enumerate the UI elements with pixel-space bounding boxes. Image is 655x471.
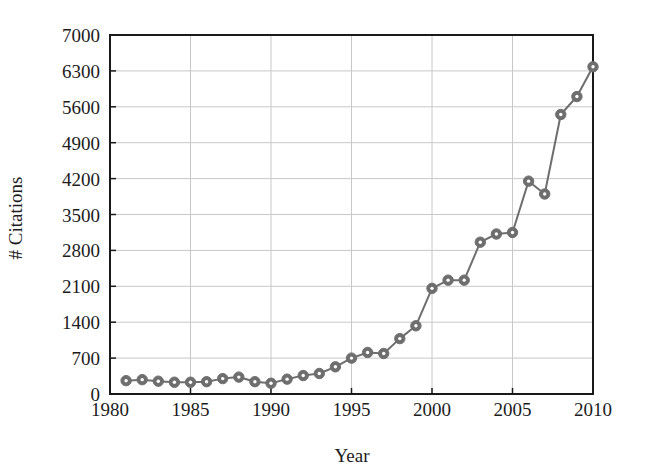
data-point-marker[interactable]: 2009: 5800 (572, 91, 582, 101)
data-point-marker[interactable]: 1995: 700 (346, 353, 356, 363)
y-tick-label: 1400 (62, 312, 100, 333)
y-tick-label: 4200 (62, 169, 100, 190)
data-point-marker[interactable]: 1998: 1080 (395, 333, 405, 343)
data-point-marker[interactable]: 1999: 1330 (411, 321, 421, 331)
data-point-marker[interactable]: 2000: 2060 (427, 283, 437, 293)
data-point-marker[interactable]: 2003: 2960 (475, 237, 485, 247)
y-tick-label: 3500 (62, 205, 100, 226)
x-tick-label: 1980 (91, 399, 129, 420)
data-point-marker[interactable]: 1994: 530 (330, 362, 340, 372)
x-tick-label: 1985 (172, 399, 210, 420)
data-point-marker[interactable]: 1986: 240 (201, 376, 211, 386)
data-point-marker[interactable]: 1991: 290 (282, 374, 292, 384)
x-axis-title: Year (334, 445, 370, 466)
y-tick-label: 2800 (62, 240, 100, 261)
y-tick-label: 6300 (62, 61, 100, 82)
data-point-marker[interactable]: 2004: 3120 (491, 229, 501, 239)
data-point-marker[interactable]: 2006: 4150 (523, 176, 533, 186)
data-point-marker[interactable]: 1981: 260 (121, 375, 131, 385)
data-point-marker[interactable]: 1984: 230 (169, 377, 179, 387)
data-point-marker[interactable]: 2005: 3150 (507, 227, 517, 237)
data-point-marker[interactable]: 1982: 280 (137, 374, 147, 384)
data-point-marker[interactable]: 1987: 300 (218, 373, 228, 383)
data-point-marker[interactable]: 1993: 400 (314, 368, 324, 378)
data-point-marker[interactable]: 2002: 2220 (459, 275, 469, 285)
y-tick-label: 5600 (62, 97, 100, 118)
y-axis-title: # Citations (5, 177, 26, 260)
data-point-marker[interactable]: 1989: 240 (250, 376, 260, 386)
x-tick-label: 1990 (252, 399, 290, 420)
data-point-marker[interactable]: 1996: 810 (362, 347, 372, 357)
data-point-marker[interactable]: 1990: 210 (266, 378, 276, 388)
x-tick-label: 2005 (494, 399, 532, 420)
x-tick-label: 2000 (413, 399, 451, 420)
data-point-marker[interactable]: 1988: 330 (234, 372, 244, 382)
data-point-marker[interactable]: 1997: 790 (379, 348, 389, 358)
data-point-marker[interactable]: 2007: 3900 (540, 189, 550, 199)
citations-line-chart: 0700140021002800350042004900560063007000… (0, 0, 655, 471)
y-tick-label: 700 (72, 348, 101, 369)
citations-chart-figure: 0700140021002800350042004900560063007000… (0, 0, 655, 471)
data-point-marker[interactable]: 1992: 360 (298, 370, 308, 380)
x-tick-label: 2010 (574, 399, 612, 420)
x-tick-label: 1995 (333, 399, 371, 420)
y-tick-label: 2100 (62, 276, 100, 297)
data-point-marker[interactable]: 2001: 2220 (443, 275, 453, 285)
data-point-marker[interactable]: 1985: 230 (185, 377, 195, 387)
y-tick-label: 7000 (62, 25, 100, 46)
data-point-marker[interactable]: 2008: 5450 (556, 109, 566, 119)
data-point-marker[interactable]: 1983: 250 (153, 376, 163, 386)
data-point-marker[interactable]: 2010: 6380 (588, 62, 598, 72)
y-tick-label: 4900 (62, 133, 100, 154)
